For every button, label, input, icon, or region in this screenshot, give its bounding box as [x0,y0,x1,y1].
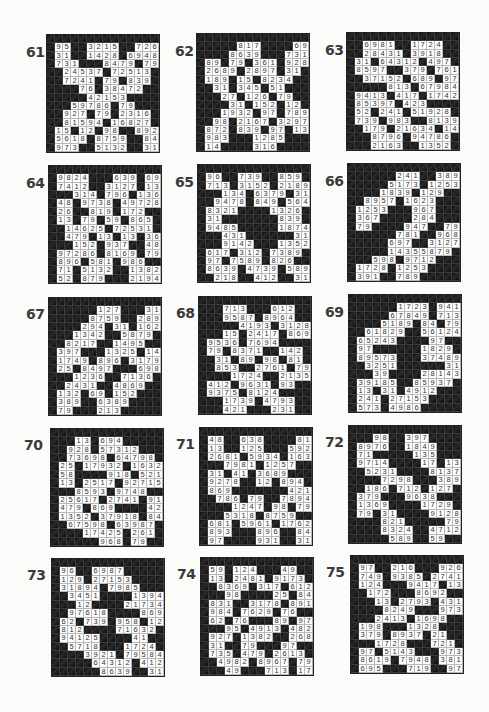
block-cell [241,600,249,608]
block-cell [84,576,92,584]
block-cell [379,83,387,91]
answer-cell: 4 [241,575,249,583]
answer-cell: 5 [121,390,129,398]
answer-cell: 3 [140,592,148,600]
block-cell [89,398,97,406]
answer-cell: 3 [421,354,429,362]
block-cell [205,101,213,109]
answer-cell: 2 [371,142,379,150]
block-cell [264,503,272,511]
answer-cell: 3 [217,600,225,608]
answer-cell: 5 [303,372,311,380]
answer-cell: 2 [413,485,421,493]
block-cell [151,119,159,127]
block-cell [303,381,311,389]
answer-cell: 1 [137,357,145,365]
block-cell [139,496,147,504]
block-cell [239,330,247,338]
block-cell [145,382,153,390]
answer-cell: 1 [60,576,68,584]
answer-cell: 4 [156,651,164,659]
answer-cell: 9 [81,357,89,365]
block-cell [57,315,65,323]
answer-cell: 1 [137,191,145,199]
block-cell [127,135,135,143]
answer-cell: 8 [288,495,296,503]
answer-cell: 2 [245,109,253,117]
answer-cell: 2 [437,501,445,509]
block-cell [405,328,413,336]
block-cell [281,583,289,591]
answer-cell: 5 [388,181,396,189]
answer-cell: 2 [222,207,230,215]
block-cell [363,83,371,91]
answer-cell: 6 [137,365,145,373]
clue-cell [347,41,355,49]
block-cell [453,387,461,395]
block-cell [55,94,63,102]
answer-cell: 7 [129,208,137,216]
answer-cell: 1 [132,592,140,600]
answer-cell: 6 [81,225,89,233]
block-cell [113,373,121,381]
answer-cell: 6 [240,436,248,444]
answer-cell: 3 [452,181,460,189]
answer-cell: 1 [388,248,396,256]
answer-cell: 7 [256,503,264,511]
block-cell [303,356,311,364]
answer-cell: 7 [229,93,237,101]
clue-cell [153,166,161,174]
answer-cell: 3 [294,232,302,240]
answer-cell: 6 [137,216,145,224]
answer-cell: 3 [87,43,95,51]
block-cell [447,615,455,623]
block-cell [303,339,311,347]
block-cell [89,306,97,314]
answer-cell: 7 [81,216,89,224]
answer-cell: 1 [113,340,121,348]
answer-cell: 2 [105,306,113,314]
block-cell [71,43,79,51]
answer-cell: 1 [253,134,261,142]
answer-cell: 1 [451,66,459,74]
clue-cell [349,303,357,311]
answer-cell: 1 [404,197,412,205]
block-cell [245,143,253,151]
clue-cell [52,559,60,567]
answer-cell: 8 [89,208,97,216]
block-cell [107,521,115,529]
answer-cell: 8 [147,513,155,521]
clue-cell [222,165,230,173]
answer-cell: 7 [427,83,435,91]
block-cell [215,406,223,414]
clue-cell [349,379,357,387]
answer-cell: 7 [139,479,147,487]
clue-cell [265,558,273,566]
block-cell [375,648,383,656]
block-cell [124,634,132,642]
answer-cell: 1 [147,529,155,537]
clue-cell [198,165,206,173]
block-cell [396,197,404,205]
clue-cell [124,559,132,567]
block-cell [381,451,389,459]
answer-cell: 8 [208,528,216,536]
block-cell [295,314,303,322]
block-cell [277,42,285,50]
block-cell [95,60,103,68]
answer-cell: 1 [230,207,238,215]
block-cell [272,445,280,453]
answer-cell: 2 [372,264,380,272]
answer-cell: 1 [453,303,461,311]
clue-cell [131,429,139,437]
answer-cell: 2 [453,526,461,534]
block-cell [301,84,309,92]
answer-cell: 3 [383,598,391,606]
block-cell [429,518,437,526]
block-cell [413,337,421,345]
block-cell [115,504,123,512]
block-cell [421,510,429,518]
clue-cell [349,459,357,467]
block-cell [137,407,145,415]
answer-cell: 8 [108,567,116,575]
